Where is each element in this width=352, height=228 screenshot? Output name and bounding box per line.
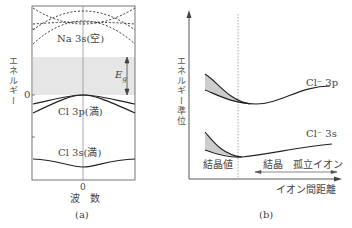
wavenumber-label: 波 数 (70, 194, 100, 204)
cl3s-ion-label: Cl⁻ 3s (306, 129, 337, 139)
cl3p-ion-label: Cl⁻ 3p (306, 78, 338, 88)
eg-label: Eg (115, 70, 127, 83)
x-zero-label: 0 (80, 183, 86, 192)
crystal-label: 結晶 (263, 160, 283, 170)
panel-b-plot (187, 10, 343, 182)
na3s-label: Na 3s(空) (57, 34, 104, 44)
caption-b: (b) (259, 210, 273, 220)
cl3s-band (33, 159, 135, 167)
interionic-distance-label: イオン間距離 (276, 185, 336, 195)
energy-level-label: エネルギー準位 (176, 56, 185, 126)
distance-axis-arrow (334, 177, 342, 182)
energy-label-a: エネルギー (8, 56, 17, 106)
cl3s-shade (205, 132, 242, 157)
y-zero-label: 0 (24, 90, 30, 100)
cl3p-label: Cl 3p(満) (58, 107, 103, 117)
caption-a: (a) (75, 210, 89, 220)
eg-subscript: g (122, 75, 126, 83)
cl3s-label: Cl 3s(満) (58, 148, 101, 158)
isolated-ion-label: 孤立イオン (293, 160, 343, 170)
crystal-value-label: 結晶値 (203, 160, 233, 170)
range-arrow (255, 171, 337, 174)
energy-axis-arrow (187, 10, 192, 18)
